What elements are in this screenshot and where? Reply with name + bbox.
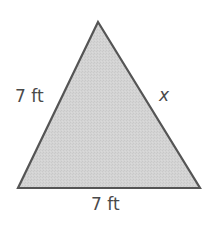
triangle-polygon: [18, 22, 200, 188]
triangle-diagram: 7 ft x 7 ft: [0, 0, 210, 225]
triangle-shape: [0, 0, 210, 225]
base-label: 7 ft: [91, 196, 120, 213]
right-side-label: x: [159, 87, 169, 104]
left-side-label: 7 ft: [15, 88, 44, 105]
